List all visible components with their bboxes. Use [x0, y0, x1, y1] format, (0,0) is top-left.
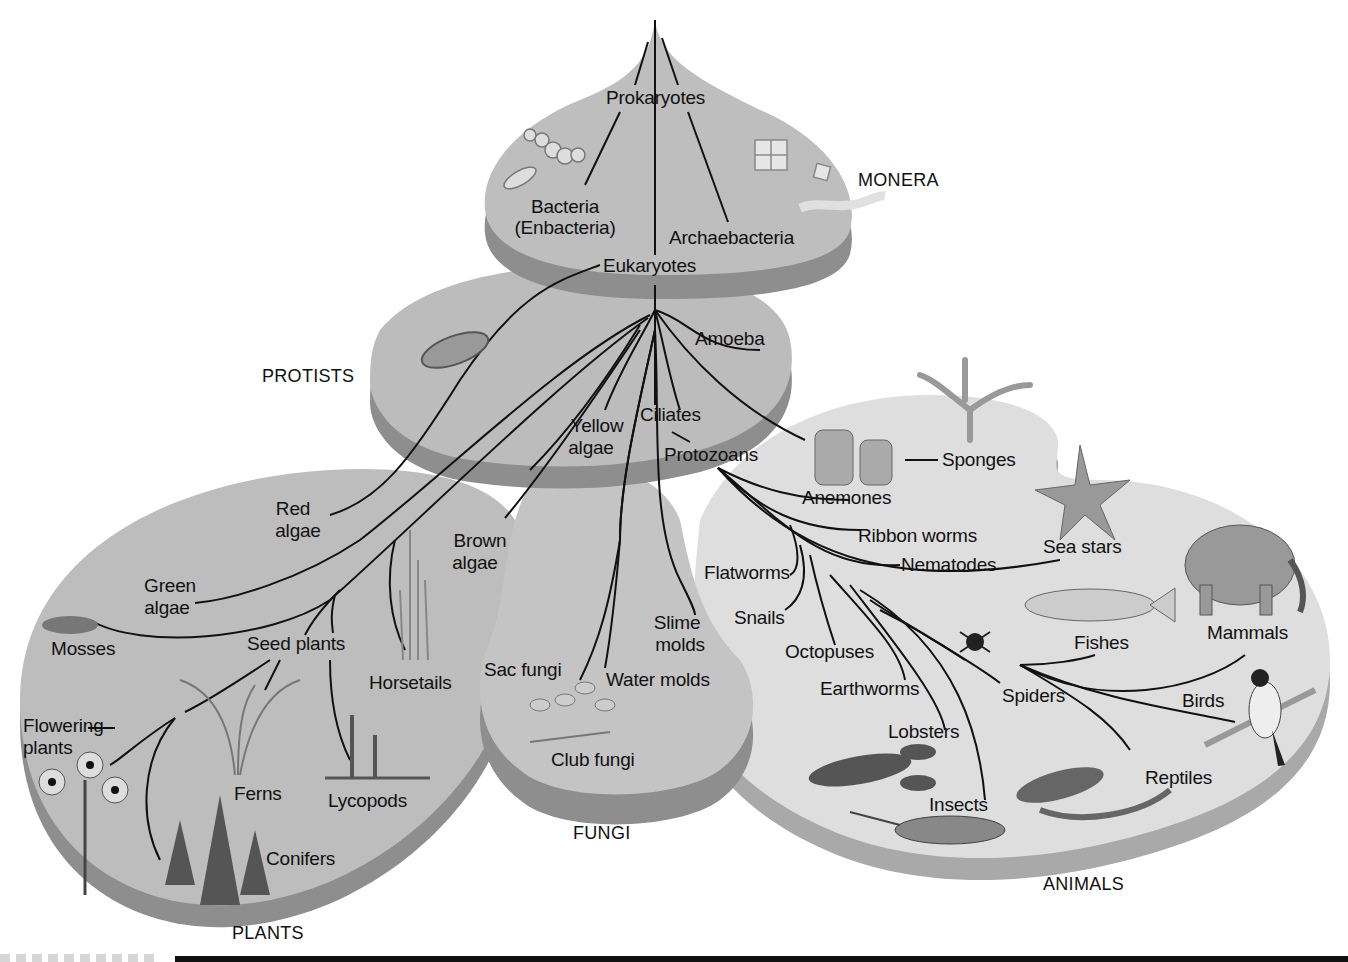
node-green-algae-2: algae: [144, 597, 190, 619]
caption-rule: [175, 956, 1348, 962]
node-fishes: Fishes: [1074, 632, 1129, 654]
kingdom-label-fungi: FUNGI: [573, 823, 631, 844]
node-sponges: Sponges: [942, 449, 1016, 471]
node-spiders: Spiders: [1002, 685, 1065, 707]
kingdom-label-protists: PROTISTS: [262, 366, 354, 387]
node-yellow-algae: Yellow: [570, 415, 623, 437]
kingdom-label-monera: MONERA: [858, 170, 939, 191]
diagram-canvas: [0, 0, 1348, 962]
node-brown-algae: Brown: [454, 530, 507, 552]
node-protozoans: Protozoans: [664, 444, 758, 466]
node-octopuses: Octopuses: [785, 641, 874, 663]
node-conifers: Conifers: [266, 848, 335, 870]
node-lycopods: Lycopods: [328, 790, 407, 812]
node-slime-molds: Slime: [654, 612, 701, 634]
node-earthworms: Earthworms: [820, 678, 919, 700]
node-ribbon-worms: Ribbon worms: [858, 525, 977, 547]
node-nematodes: Nematodes: [901, 554, 996, 576]
node-eukaryotes: Eukaryotes: [603, 255, 696, 277]
node-bacteria-sub: (Enbacteria): [514, 217, 615, 239]
node-club-fungi: Club fungi: [551, 749, 635, 771]
node-slime-molds-2: molds: [655, 634, 705, 656]
node-flowering-plants-2: plants: [23, 737, 73, 759]
node-horsetails: Horsetails: [369, 672, 451, 694]
node-bacteria: Bacteria: [531, 196, 599, 218]
tree-of-life-diagram: MONERA PROTISTS PLANTS FUNGI ANIMALS Pro…: [0, 0, 1348, 962]
node-mosses: Mosses: [51, 638, 115, 660]
node-mammals: Mammals: [1207, 622, 1288, 644]
node-water-molds: Water molds: [606, 669, 710, 691]
node-red-algae: Red: [276, 498, 310, 520]
node-red-algae-2: algae: [275, 520, 321, 542]
node-birds: Birds: [1182, 690, 1224, 712]
node-ferns: Ferns: [234, 783, 282, 805]
node-flowering-plants: Flowering: [23, 715, 104, 737]
node-anemones: Anemones: [802, 487, 891, 509]
node-flatworms: Flatworms: [704, 562, 790, 584]
node-amoeba: Amoeba: [695, 328, 765, 350]
node-archaebacteria: Archaebacteria: [669, 227, 794, 249]
node-prokaryotes: Prokaryotes: [606, 87, 705, 109]
node-seed-plants: Seed plants: [247, 633, 345, 655]
moss-icon: [42, 616, 98, 634]
kingdom-label-plants: PLANTS: [232, 923, 304, 944]
node-brown-algae-2: algae: [452, 552, 498, 574]
node-lobsters: Lobsters: [888, 721, 959, 743]
node-sea-stars: Sea stars: [1043, 536, 1121, 558]
caption-fragment: [0, 954, 160, 962]
node-insects: Insects: [929, 794, 988, 816]
node-snails: Snails: [734, 607, 785, 629]
node-green-algae: Green: [144, 575, 196, 597]
node-sac-fungi: Sac fungi: [484, 659, 561, 681]
node-yellow-algae-2: algae: [568, 437, 614, 459]
node-ciliates: Ciliates: [640, 404, 701, 426]
kingdom-label-animals: ANIMALS: [1043, 874, 1124, 895]
node-reptiles: Reptiles: [1145, 767, 1212, 789]
